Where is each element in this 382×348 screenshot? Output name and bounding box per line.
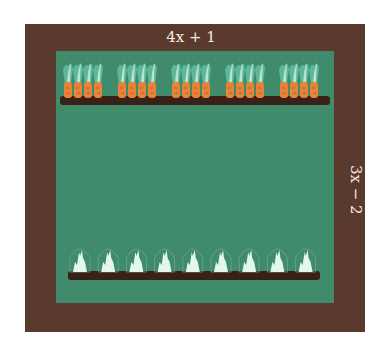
plant-rows xyxy=(0,0,382,348)
carrot-row xyxy=(60,63,330,105)
seedling-row xyxy=(68,249,320,280)
